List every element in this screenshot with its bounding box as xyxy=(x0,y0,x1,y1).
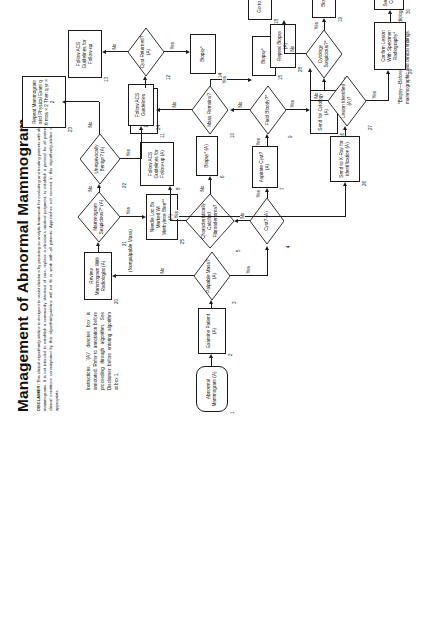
edge-11-12-arrow xyxy=(143,76,147,80)
node-12-number: 12 xyxy=(166,75,171,80)
disclaimer-text: This clinical algorithm/guideline is des… xyxy=(36,115,59,411)
node-3-number: 3 xyxy=(232,301,237,304)
edge-17-no-label: No xyxy=(290,45,295,52)
edge-9-yes-label: Yes xyxy=(290,99,295,108)
edge-10-no-arrow xyxy=(156,108,160,112)
edge-1-2-arrow xyxy=(209,354,213,358)
edge-5-yes-arrow xyxy=(168,186,172,190)
edge-25-26-h2 xyxy=(345,186,346,217)
node-20-label: Review Mammogram With Radiologist (A) xyxy=(89,255,108,297)
edge-7-9-label: Yes xyxy=(256,137,261,146)
node-2-number: 2 xyxy=(228,353,233,356)
edge-27-no xyxy=(310,100,328,101)
edge-26-27-arrow xyxy=(343,126,347,130)
node-3-label: Palpable Mass? (A) xyxy=(206,254,218,298)
edge-22-no-label: No xyxy=(88,121,93,128)
edge-5-no-label: No xyxy=(200,185,205,192)
node-26-label: Send to X-Ray for identification (A) xyxy=(339,139,351,179)
edge-5-no-arrow xyxy=(208,176,212,180)
node-27-label: Lesion Identified (A)? xyxy=(341,78,353,124)
edge-17-no xyxy=(284,53,306,54)
node-3: Palpable Mass? (A) xyxy=(194,252,230,300)
node-1-number: 1 xyxy=(230,411,235,414)
edge-27-yes-arrow xyxy=(386,70,390,74)
node-27-number: 27 xyxy=(368,125,373,130)
edge-3-no-arrow xyxy=(112,274,116,278)
node-11-number: 11 xyxy=(160,133,165,138)
node-7-number: 7 xyxy=(280,187,285,190)
node-22-number: 22 xyxy=(122,183,127,188)
edge-17-yes xyxy=(324,22,325,30)
edge-21-no-label: No xyxy=(88,185,93,192)
edge-10-yes xyxy=(210,80,211,86)
edge-27-yes-v xyxy=(366,100,388,101)
edge-12-yes-arrow xyxy=(186,50,190,54)
edge-29-30-arrow xyxy=(388,10,392,14)
node-10: Mass Remains? xyxy=(192,86,228,134)
node-1-label: Abnormal Mammogram (A) xyxy=(206,369,218,409)
edge-3-yes-label: Yes xyxy=(246,265,251,274)
edge-17-yes-arrow xyxy=(322,18,326,22)
node-23: Repeat Mammogram and Physical Exam q 6 m… xyxy=(22,76,66,128)
edge-9-no-arrow xyxy=(230,108,234,112)
edge-10-yes-label: Yes xyxy=(222,75,227,84)
edge-17-no-h xyxy=(284,24,285,54)
edge-12-yes-label: Yes xyxy=(170,41,175,50)
node-10-number: 10 xyxy=(230,133,235,138)
node-4: Cyst? (A) xyxy=(250,198,284,244)
node-26-number: 26 xyxy=(362,181,367,186)
edge-22-yes-h xyxy=(141,130,142,159)
node-10-label: Mass Remains? xyxy=(207,88,213,132)
node-29-label: Confirm Lesion With Specimen Radiography… xyxy=(381,25,400,67)
disclaimer-block: DISCLAIMER: This clinical algorithm/guid… xyxy=(36,115,60,411)
edge-4-no xyxy=(238,220,250,221)
node-8: Follow ACS Guidelines for Follow-up (A) xyxy=(140,142,174,186)
node-20: Review Mammogram With Radiologist (A) xyxy=(84,252,112,300)
node-26-box: Send to X-Ray for identification (A) xyxy=(330,136,360,182)
algorithm-sheet: Management of Abnormal Mammogram DISCLAI… xyxy=(0,0,434,434)
edge-12-no xyxy=(106,51,128,52)
edge-3-no xyxy=(116,275,194,276)
node-21-label: Mammogram Suspicious?* (A) xyxy=(93,194,105,240)
node-24: Follow ACS Guidelines xyxy=(128,84,154,126)
node-14-label: Biopsy* xyxy=(200,46,206,62)
page-root: Management of Abnormal Mammogram DISCLAI… xyxy=(0,0,434,622)
node-13-number: 13 xyxy=(104,77,109,82)
edge-10-yes-v xyxy=(210,79,250,80)
node-9: Fluid Bloody?* xyxy=(250,86,286,134)
nonpalpable-branch-label: (Nonpalpable Mass) xyxy=(128,229,133,272)
edge-9-yes xyxy=(286,109,306,110)
edge-5-yes-label: Yes xyxy=(174,210,179,219)
edge-21-no-arrow xyxy=(97,184,101,188)
edge-5-yes xyxy=(170,220,186,221)
edge-5-no xyxy=(210,180,211,194)
edge-4-no-arrow xyxy=(234,219,238,223)
node-15-number: 15 xyxy=(278,75,283,80)
node-12: Cyst Returned? (A) xyxy=(128,28,164,76)
edge-12-no-arrow xyxy=(102,50,106,54)
edge-12-yes xyxy=(164,51,186,52)
edge-3-yes-h xyxy=(267,250,268,276)
node-4-number: 4 xyxy=(286,245,291,248)
edge-22-yes-label: Yes xyxy=(126,148,131,157)
edge-2-3 xyxy=(211,304,212,308)
edge-21-no xyxy=(99,188,100,192)
edge-7-9-arrow xyxy=(265,134,269,138)
edge-10-no xyxy=(160,109,192,110)
page-title: Management of Abnormal Mammogram xyxy=(14,118,32,412)
node-20-number: 20 xyxy=(114,299,119,304)
edge-21-yes-arrow xyxy=(142,215,146,219)
node-6-label: Biopsy* (A) xyxy=(204,144,210,167)
edge-21-yes xyxy=(120,216,142,217)
node-23-number: 23 xyxy=(68,127,73,132)
edge-27-no-arrow xyxy=(308,68,312,72)
node-7: Aspirate Cyst? (A) xyxy=(252,146,278,188)
edge-9-no xyxy=(234,109,250,110)
edge-12-no-label: No xyxy=(112,43,117,50)
edge-20-21 xyxy=(98,246,99,252)
edge-1-2 xyxy=(211,358,212,366)
node-19: Biopsy* xyxy=(312,0,336,18)
edge-26-27 xyxy=(345,130,346,136)
node-8-number: 8 xyxy=(176,187,181,190)
node-5-number: 5 xyxy=(236,249,241,252)
